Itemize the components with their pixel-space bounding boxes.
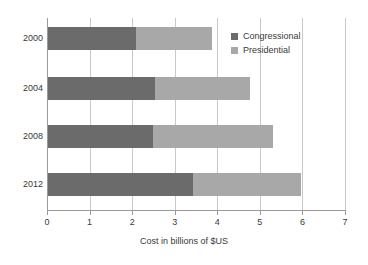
gridline-7 [345,18,346,210]
x-axis-line [47,210,345,211]
bar-row-2012 [47,173,345,196]
x-tick-mark-0 [47,210,48,215]
x-tick-label-4: 4 [215,217,220,227]
y-axis-label-2008: 2008 [12,131,43,141]
legend-swatch-congressional [231,33,238,40]
bar-segment-2004-presidential [155,77,250,100]
y-axis-line [47,18,48,210]
chart-container: 01234567 2000200420082012 Cost in billio… [0,0,368,265]
x-tick-mark-6 [302,210,303,215]
chart-legend: Congressional Presidential [231,30,301,58]
x-tick-mark-3 [175,210,176,215]
x-tick-label-0: 0 [44,217,49,227]
x-tick-label-7: 7 [342,217,347,227]
bar-row-2008 [47,125,345,148]
x-tick-mark-4 [217,210,218,215]
bar-segment-2000-congressional [47,27,136,50]
bar-segment-2008-congressional [47,125,153,148]
x-tick-label-3: 3 [172,217,177,227]
legend-item-presidential: Presidential [231,44,301,56]
x-tick-label-2: 2 [130,217,135,227]
bar-row-2004 [47,77,345,100]
legend-swatch-presidential [231,47,238,54]
bar-segment-2012-congressional [47,173,193,196]
y-axis-label-2012: 2012 [12,179,43,189]
legend-item-congressional: Congressional [231,30,301,42]
y-axis-label-2000: 2000 [12,33,43,43]
x-tick-mark-7 [345,210,346,215]
bar-segment-2012-presidential [193,173,301,196]
bar-segment-2004-congressional [47,77,155,100]
x-tick-mark-5 [260,210,261,215]
x-axis-title: Cost in billions of $US [0,236,368,246]
y-axis-label-2004: 2004 [12,83,43,93]
x-tick-label-6: 6 [300,217,305,227]
x-tick-label-5: 5 [257,217,262,227]
x-tick-mark-2 [132,210,133,215]
bar-segment-2000-presidential [136,27,212,50]
legend-label-congressional: Congressional [243,32,301,41]
bar-segment-2008-presidential [153,125,272,148]
legend-label-presidential: Presidential [243,46,290,55]
x-tick-label-1: 1 [87,217,92,227]
x-tick-mark-1 [90,210,91,215]
